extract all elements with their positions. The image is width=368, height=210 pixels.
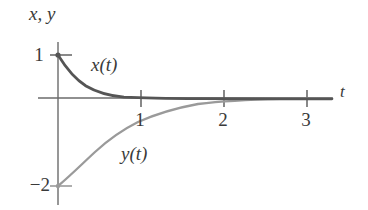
ticks-group	[50, 55, 307, 186]
axes-group	[38, 42, 332, 205]
y-start-marker	[56, 184, 60, 188]
x-tick-label-3: 3	[295, 110, 317, 129]
vertical-axis-label: x, y	[29, 4, 55, 23]
plot-canvas	[0, 0, 368, 210]
curve-label-x-of-t: x(t)	[91, 55, 117, 74]
curve-label-y-of-t: y(t)	[121, 144, 147, 163]
y-tick-label-1: 1	[30, 45, 48, 64]
x-tick-label-1: 1	[129, 110, 151, 129]
horizontal-axis-label: t	[340, 83, 345, 100]
curve-y-of-t	[58, 98, 332, 186]
x-tick-label-2: 2	[212, 110, 234, 129]
y-tick-label-neg2: −2	[14, 175, 50, 194]
x-start-marker	[55, 52, 60, 57]
graph-figure: x, y t x(t) y(t) 1 2 3 1 −2	[0, 0, 368, 210]
